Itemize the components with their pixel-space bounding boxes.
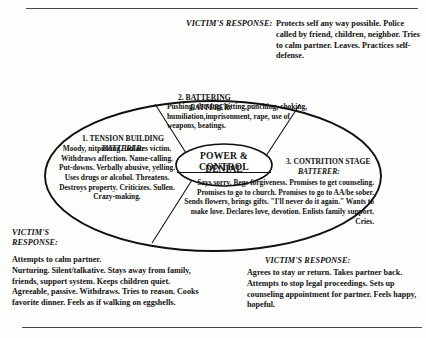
victim-response-left-label: VICTIM'S RESPONSE: bbox=[12, 228, 58, 249]
phase-tension-title: 1. TENSION BUILDING bbox=[82, 134, 164, 143]
phase-battering-body: Pushing, shoving, hitting,punching, chok… bbox=[167, 102, 313, 131]
victim-response-right-label: VICTIM'S RESPONSE: bbox=[265, 256, 350, 265]
victim-response-left-body: Attempts to calm partner. Nurturing. Sil… bbox=[12, 255, 208, 309]
page-rule-bottom bbox=[22, 327, 422, 328]
victim-response-top-body: Protects self any way possible. Police c… bbox=[276, 19, 424, 62]
phase-contrition-title: 3. CONTRITION STAGE bbox=[286, 157, 370, 166]
core-denial-label: DENIAL bbox=[177, 164, 271, 175]
phase-contrition-role: BATTERER: bbox=[286, 167, 370, 177]
victim-response-right-body: Agrees to stay or return. Takes partner … bbox=[247, 268, 423, 311]
phase-contrition-body: Says sorry. Begs forgiveness. Promises t… bbox=[182, 178, 374, 226]
phase-tension-body: Moody, nitpicking. Isolates victim. With… bbox=[54, 144, 180, 202]
victim-response-top-label: VICTIM'S RESPONSE: bbox=[186, 19, 272, 28]
page-rule-top bbox=[26, 8, 418, 9]
document-page: VICTIM'S RESPONSE: Protects self any way… bbox=[0, 0, 426, 338]
